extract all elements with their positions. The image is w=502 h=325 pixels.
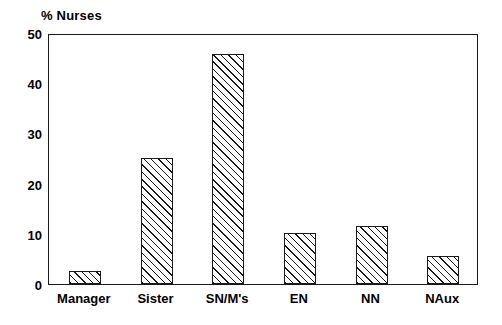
x-axis-tick-label: NAux [425,291,459,306]
x-axis-tick-label: NN [361,291,380,306]
y-axis-tick-label: 50 [8,27,42,42]
bar-en [284,233,316,284]
chart-title: % Nurses [41,8,102,23]
y-axis-tick-label: 10 [8,227,42,242]
bar-chart: % Nurses 50403020100 ManagerSisterSN/M's… [0,0,502,325]
bar-naux [427,256,459,284]
bar-sn-m-s [212,54,244,284]
y-axis-tick-label: 40 [8,77,42,92]
bar-nn [356,226,388,284]
y-axis-tick-label: 30 [8,127,42,142]
y-axis-tick-label: 20 [8,177,42,192]
x-axis-tick-label: Sister [137,291,173,306]
y-axis-tick-label: 0 [8,278,42,293]
x-axis-tick-label: Manager [57,291,110,306]
plot-area [48,34,478,285]
x-axis-tick-label: EN [290,291,308,306]
bars-layer [49,35,477,284]
bar-manager [69,271,101,284]
bar-sister [141,158,173,285]
x-axis-tick-label: SN/M's [206,291,249,306]
